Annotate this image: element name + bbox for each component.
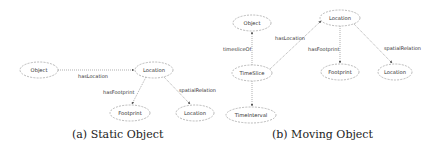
node-b-location2: Location	[378, 64, 412, 80]
edge-label-b-timesliceof: timesliceOf	[223, 46, 251, 52]
node-label: Footprint	[328, 69, 351, 76]
node-label: Location	[384, 69, 406, 75]
node-label: Footprint	[118, 110, 141, 117]
ontology-diagram: hasLocation hasFootprint spatialRelation…	[0, 0, 439, 152]
figure-b-moving-object: timesliceOf hasLocation hasFootprint spa…	[223, 10, 421, 123]
edge-label-b-hasfootprint: hasFootprint	[308, 46, 339, 53]
edge-label-a-spatialrelation: spatialRelation	[179, 87, 216, 94]
caption-a: (a) Static Object	[72, 128, 163, 141]
node-a-footprint: Footprint	[110, 105, 150, 121]
edge-label-b-spatialrelation: spatialRelation	[384, 45, 421, 52]
node-a-object: Object	[20, 62, 58, 78]
node-b-object: Object	[233, 15, 271, 31]
figure-a-static-object: hasLocation hasFootprint spatialRelation…	[20, 62, 216, 121]
caption-b: (b) Moving Object	[272, 128, 373, 141]
edge-b-haslocation	[270, 21, 321, 69]
node-b-timeslice: TimeSlice	[232, 65, 272, 81]
node-b-timeinterval: TimeInterval	[226, 107, 276, 123]
node-label: Location	[184, 110, 206, 116]
node-label: Object	[244, 20, 261, 27]
edge-label-b-haslocation: hasLocation	[275, 35, 305, 41]
node-label: TimeSlice	[239, 70, 265, 76]
node-a-location2: Location	[176, 105, 214, 121]
node-b-location: Location	[320, 10, 360, 26]
node-a-location: Location	[135, 62, 173, 78]
node-label: Location	[143, 67, 165, 73]
node-label: Location	[329, 15, 351, 21]
node-label: TimeInterval	[234, 112, 268, 118]
node-b-footprint: Footprint	[321, 64, 359, 80]
edge-label-a-hasfootprint: hasFootprint	[103, 89, 134, 96]
edge-b-spatialrelation	[354, 24, 392, 63]
edge-label-a-haslocation: hasLocation	[78, 73, 108, 79]
node-label: Object	[31, 67, 48, 74]
